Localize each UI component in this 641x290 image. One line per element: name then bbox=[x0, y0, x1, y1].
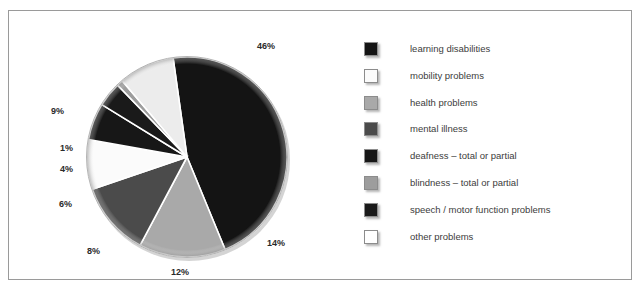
legend-item-label: mental illness bbox=[410, 122, 468, 136]
figure-frame: 46% 14% 12% 8% 6% 4% 1% 9% learning disa… bbox=[8, 10, 632, 280]
pie-label-mobility-problems: 8% bbox=[87, 246, 100, 256]
legend-swatch-color bbox=[364, 96, 378, 110]
pie-rim-shading bbox=[87, 57, 287, 257]
pie-label-speech-motor: 4% bbox=[60, 164, 73, 174]
legend-swatch-color bbox=[364, 42, 378, 56]
legend-item-label: deafness – total or partial bbox=[410, 149, 517, 163]
legend-item-label: blindness – total or partial bbox=[410, 176, 518, 190]
legend-item-label: speech / motor function problems bbox=[410, 203, 550, 217]
pie-label-deafness: 6% bbox=[59, 199, 72, 209]
legend-swatch-color bbox=[364, 122, 378, 136]
legend-swatch bbox=[364, 68, 382, 86]
legend-swatch bbox=[364, 121, 382, 139]
legend-item-label: mobility problems bbox=[410, 69, 484, 83]
legend-swatch bbox=[364, 148, 382, 166]
pie-chart-area: 46% 14% 12% 8% 6% 4% 1% 9% bbox=[19, 23, 349, 289]
chart-legend: learning disabilitiesmobility problemshe… bbox=[364, 41, 634, 276]
legend-swatch bbox=[364, 175, 382, 193]
pie-label-health-problems: 14% bbox=[267, 238, 285, 248]
pie-label-learning-disabilities: 46% bbox=[257, 41, 275, 51]
legend-swatch bbox=[364, 41, 382, 59]
legend-swatch bbox=[364, 202, 382, 220]
legend-swatch-color bbox=[364, 203, 378, 217]
legend-item-label: other problems bbox=[410, 230, 473, 244]
pie-chart-svg bbox=[19, 23, 349, 289]
legend-swatch bbox=[364, 229, 382, 247]
legend-swatch-color bbox=[364, 230, 378, 244]
pie-label-other-problems: 9% bbox=[51, 106, 64, 116]
legend-item-label: health problems bbox=[410, 96, 478, 110]
pie-label-blindness: 1% bbox=[60, 143, 73, 153]
legend-swatch-color bbox=[364, 176, 378, 190]
pie-label-mental-illness: 12% bbox=[171, 267, 189, 277]
legend-swatch bbox=[364, 95, 382, 113]
pie-chart-figure: 46% 14% 12% 8% 6% 4% 1% 9% learning disa… bbox=[0, 0, 641, 290]
legend-item-label: learning disabilities bbox=[410, 42, 490, 56]
legend-swatch-color bbox=[364, 69, 378, 83]
legend-swatch-color bbox=[364, 149, 378, 163]
